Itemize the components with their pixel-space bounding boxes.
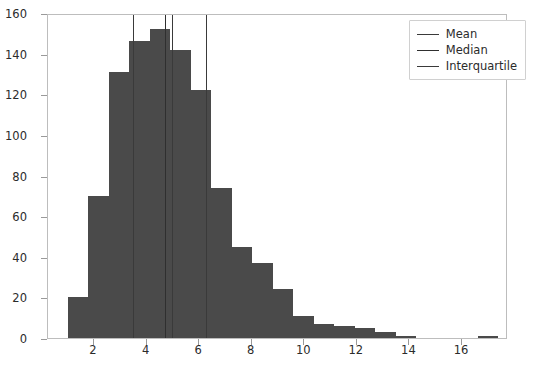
histogram-bar xyxy=(252,263,273,338)
x-axis-tick-label: 10 xyxy=(296,343,311,357)
legend-item: Interquartile xyxy=(417,58,517,74)
x-axis-tick-label: 8 xyxy=(247,343,254,357)
x-axis-tick-mark xyxy=(251,339,252,345)
y-axis-tick-label: 0 xyxy=(20,332,27,346)
histogram-bar xyxy=(129,41,150,338)
reference-line-interquartile xyxy=(133,15,134,338)
histogram-bar xyxy=(334,326,355,338)
y-axis-tick-label: 140 xyxy=(5,48,27,62)
histogram-bar xyxy=(211,188,232,338)
y-axis-tick-label: 100 xyxy=(5,129,27,143)
x-axis-tick-mark xyxy=(303,339,304,345)
x-axis-tick-label: 2 xyxy=(89,343,96,357)
legend-item: Median xyxy=(417,42,517,58)
histogram-bar xyxy=(109,72,130,338)
reference-line-median xyxy=(165,15,166,338)
legend-line-swatch xyxy=(417,66,439,67)
histogram-bar xyxy=(232,247,253,338)
histogram-bar xyxy=(355,328,376,338)
histogram-figure: 020406080100120140160 246810121416 MeanM… xyxy=(0,0,535,375)
legend-item: Mean xyxy=(417,26,517,42)
reference-line-interquartile xyxy=(206,15,207,338)
y-axis-tick-label: 120 xyxy=(5,88,27,102)
histogram-bar xyxy=(293,316,314,338)
y-axis-tick-mark xyxy=(41,339,47,340)
legend-label: Median xyxy=(446,43,488,57)
x-axis-tick-mark xyxy=(93,339,94,345)
x-axis-tick-mark xyxy=(198,339,199,345)
histogram-bar xyxy=(314,324,335,338)
x-axis-tick-label: 6 xyxy=(194,343,201,357)
legend: MeanMedianInterquartile xyxy=(409,20,526,80)
x-axis-tick-mark xyxy=(146,339,147,345)
x-axis-tick-label: 16 xyxy=(454,343,469,357)
y-axis-tick-label: 20 xyxy=(12,291,27,305)
histogram-bar xyxy=(88,196,109,338)
x-axis-tick-label: 14 xyxy=(401,343,416,357)
y-axis-tick-label: 60 xyxy=(12,210,27,224)
legend-line-swatch xyxy=(417,50,439,51)
histogram-bar xyxy=(273,289,294,338)
y-axis-tick-label: 80 xyxy=(12,170,27,184)
x-axis-tick-mark xyxy=(356,339,357,345)
y-axis-tick-label: 160 xyxy=(5,7,27,21)
histogram-bar xyxy=(191,90,212,338)
x-axis-tick-label: 12 xyxy=(349,343,364,357)
histogram-bar xyxy=(170,50,191,338)
x-axis-tick-label: 4 xyxy=(142,343,149,357)
histogram-bar xyxy=(375,332,396,338)
x-axis-tick-mark xyxy=(408,339,409,345)
legend-line-swatch xyxy=(417,34,439,35)
histogram-bar xyxy=(478,336,499,338)
x-axis-tick-mark xyxy=(461,339,462,345)
reference-line-mean xyxy=(172,15,173,338)
histogram-bar xyxy=(68,297,89,338)
legend-label: Mean xyxy=(446,27,477,41)
y-axis-tick-label: 40 xyxy=(12,251,27,265)
histogram-bar xyxy=(396,336,417,338)
histogram-bar xyxy=(150,29,171,338)
legend-label: Interquartile xyxy=(446,59,517,73)
